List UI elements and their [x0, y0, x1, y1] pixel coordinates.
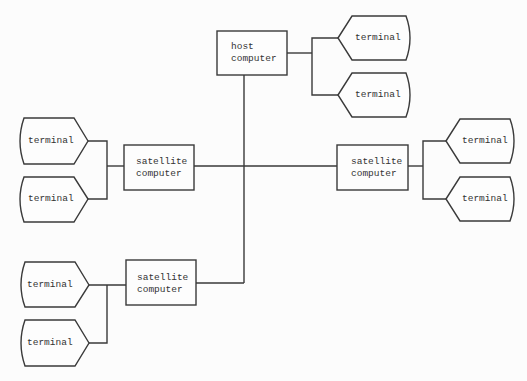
terminal-label: terminal: [462, 135, 508, 147]
satellite-right-line2: computer: [351, 168, 397, 179]
satellite-left-line2: computer: [136, 168, 182, 179]
satellite-bottom-label: satellite computer: [137, 272, 188, 296]
satellite-left-line1: satellite: [136, 156, 187, 167]
bottom-bracket: [89, 285, 107, 343]
terminal-label: terminal: [462, 193, 508, 205]
terminal-label: terminal: [27, 279, 73, 291]
terminal-label: terminal: [27, 337, 73, 349]
terminal-label: terminal: [355, 89, 401, 101]
satellite-right-label: satellite computer: [351, 156, 402, 180]
terminal-label: terminal: [28, 193, 74, 205]
satellite-bottom-line1: satellite: [137, 272, 188, 283]
host-label-line1: host: [231, 41, 254, 52]
satellite-right-line1: satellite: [351, 156, 402, 167]
network-diagram: host computer satellite computer satelli…: [0, 0, 527, 381]
satellite-bottom-line2: computer: [137, 284, 183, 295]
host-label: host computer: [231, 41, 277, 65]
terminal-label: terminal: [28, 135, 74, 147]
satellite-left-label: satellite computer: [136, 156, 187, 180]
host-bracket: [312, 38, 338, 95]
host-label-line2: computer: [231, 53, 277, 64]
left-bracket: [88, 141, 107, 199]
right-bracket: [423, 141, 446, 199]
terminal-label: terminal: [355, 32, 401, 44]
